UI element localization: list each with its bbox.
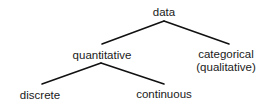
node-continuous: continuous (136, 88, 192, 101)
node-categorical: categorical (qualitative) (196, 48, 255, 74)
node-quantitative: quantitative (73, 49, 132, 62)
edge-data-categorical (164, 21, 229, 44)
node-categorical-sublabel: (qualitative) (196, 61, 255, 74)
edge-quantitative-discrete (42, 63, 101, 84)
edge-quantitative-continuous (101, 63, 164, 84)
edge-data-quantitative (102, 21, 164, 44)
node-categorical-label: categorical (196, 48, 255, 61)
data-taxonomy-tree: data quantitative categorical (qualitati… (0, 0, 269, 107)
node-data: data (153, 6, 175, 19)
node-discrete: discrete (20, 89, 60, 102)
